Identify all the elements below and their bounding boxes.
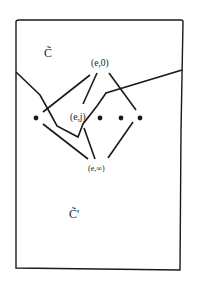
edge-middle-to-bottom bbox=[84, 128, 95, 159]
boundary-curve-left bbox=[16, 70, 182, 137]
vertex-dot-3 bbox=[119, 116, 124, 121]
region-label-lower: C̃' bbox=[69, 207, 79, 221]
edge-top-to-middle bbox=[83, 73, 97, 104]
edge-right-dot-to-bottom bbox=[108, 122, 133, 158]
node-label-bottom: (e,∞) bbox=[88, 164, 105, 173]
region-label-upper: C̃ bbox=[44, 46, 52, 60]
vertex-dot-1 bbox=[34, 116, 39, 121]
vertex-dot-2 bbox=[98, 116, 103, 121]
edge-top-to-left-dot bbox=[43, 75, 90, 112]
diagram-canvas: C̃ (e,0) (e,j) (e,∞) C̃' bbox=[0, 0, 197, 294]
node-label-middle: (e,j) bbox=[70, 112, 86, 123]
node-label-top: (e,0) bbox=[91, 58, 109, 69]
vertex-dot-4 bbox=[138, 116, 143, 121]
